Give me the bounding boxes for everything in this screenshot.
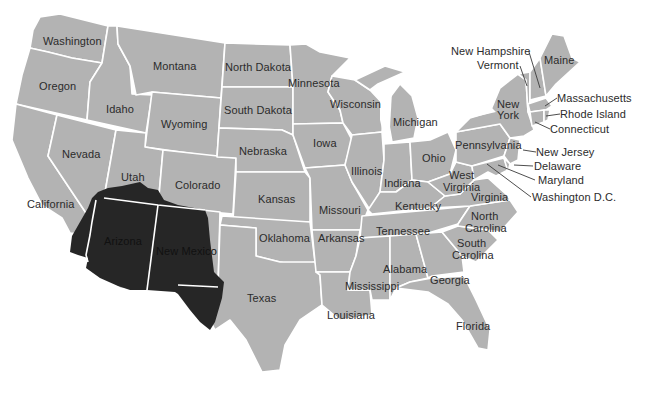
label-utah: Utah bbox=[121, 172, 145, 183]
label-florida: Florida bbox=[456, 321, 490, 332]
label-vermont: Vermont bbox=[477, 60, 519, 71]
label-new-mexico: New Mexico bbox=[156, 246, 217, 257]
label-arkansas: Arkansas bbox=[318, 233, 365, 244]
label-colorado: Colorado bbox=[175, 180, 220, 191]
label-massachusetts: Massachusetts bbox=[557, 93, 632, 104]
label-nebraska: Nebraska bbox=[239, 146, 287, 157]
label-connecticut: Connecticut bbox=[550, 124, 609, 135]
label-south-dakota: South Dakota bbox=[224, 105, 292, 116]
label-new-york-line2: York bbox=[497, 110, 519, 121]
label-alabama: Alabama bbox=[383, 264, 427, 275]
label-montana: Montana bbox=[153, 61, 197, 72]
label-rhode-island: Rhode Island bbox=[560, 109, 626, 120]
label-louisiana: Louisiana bbox=[327, 310, 375, 321]
label-west-virginia-line2: Virginia bbox=[443, 182, 480, 193]
label-kentucky: Kentucky bbox=[395, 201, 441, 212]
label-california: California bbox=[27, 199, 74, 210]
label-texas: Texas bbox=[247, 293, 276, 304]
label-kansas: Kansas bbox=[258, 194, 295, 205]
label-mississippi: Mississippi bbox=[345, 281, 399, 292]
label-michigan: Michigan bbox=[393, 117, 438, 128]
label-missouri: Missouri bbox=[319, 205, 361, 216]
label-minnesota: Minnesota bbox=[288, 78, 340, 89]
label-indiana: Indiana bbox=[384, 178, 421, 189]
label-virginia: Virginia bbox=[471, 192, 508, 203]
label-north-carolina-line1: North bbox=[471, 211, 498, 222]
label-tennessee: Tennessee bbox=[376, 226, 430, 237]
label-new-jersey: New Jersey bbox=[536, 147, 594, 158]
label-wisconsin: Wisconsin bbox=[330, 99, 381, 110]
label-idaho: Idaho bbox=[106, 104, 134, 115]
label-maine: Maine bbox=[544, 55, 574, 66]
label-iowa: Iowa bbox=[313, 138, 337, 149]
label-arizona: Arizona bbox=[104, 236, 142, 247]
label-nevada: Nevada bbox=[62, 149, 101, 160]
label-maryland: Maryland bbox=[538, 175, 584, 186]
label-west-virginia-line1: West bbox=[449, 170, 474, 181]
state-florida[interactable] bbox=[396, 276, 490, 350]
label-delaware: Delaware bbox=[534, 161, 581, 172]
label-north-dakota: North Dakota bbox=[225, 62, 291, 73]
label-oklahoma: Oklahoma bbox=[259, 233, 310, 244]
state-connecticut[interactable] bbox=[530, 110, 544, 126]
label-north-carolina-line2: Carolina bbox=[465, 223, 507, 234]
label-wyoming: Wyoming bbox=[161, 119, 207, 130]
label-south-carolina-line1: South bbox=[457, 238, 486, 249]
label-south-carolina-line2: Carolina bbox=[452, 250, 494, 261]
label-washington-dc: Washington D.C. bbox=[532, 192, 616, 203]
label-pennsylvania: Pennsylvania bbox=[455, 140, 522, 151]
label-illinois: Illinois bbox=[351, 166, 382, 177]
label-georgia: Georgia bbox=[430, 275, 470, 286]
label-washington: Washington bbox=[43, 36, 102, 47]
label-new-hampshire: New Hampshire bbox=[451, 46, 531, 57]
label-oregon: Oregon bbox=[39, 81, 76, 92]
label-ohio: Ohio bbox=[422, 153, 446, 164]
